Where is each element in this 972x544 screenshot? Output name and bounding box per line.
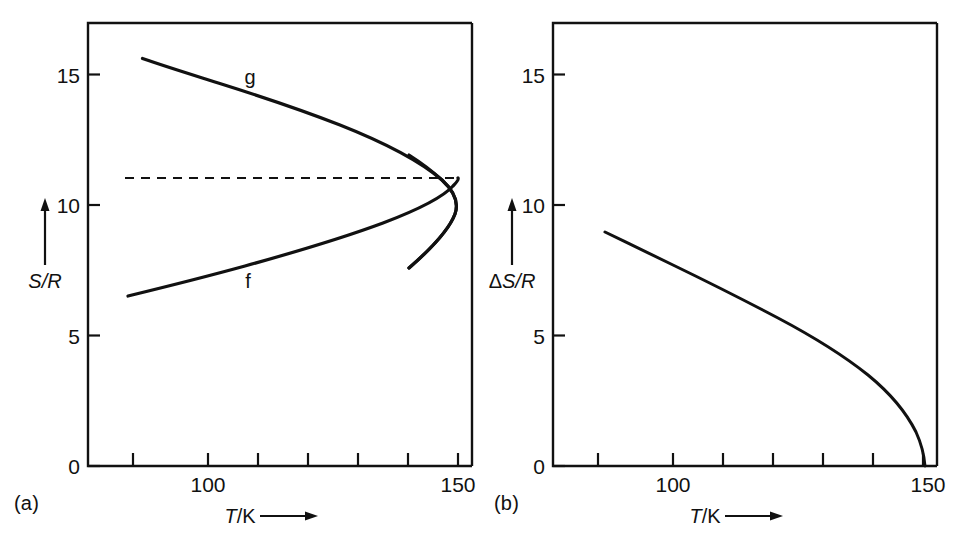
panel-b-ytick-0: 0	[533, 455, 545, 478]
panel-a-x-axis-arrow-icon	[260, 512, 318, 521]
panel-b-y-axis-title-unit: R	[521, 270, 535, 292]
panel-b-xtick-100: 100	[655, 473, 690, 496]
panel-a-x-ticks	[133, 453, 458, 466]
entropy-figure: 0 5 10 15 100 150 S/R	[0, 0, 972, 544]
panel-b-ytick-10: 10	[522, 194, 545, 217]
panel-a-y-axis-title: S/R	[28, 270, 61, 292]
panel-b-x-ticks	[598, 453, 923, 466]
panel-b-y-axis-title: ΔS/R	[489, 270, 536, 292]
panel-b-x-axis-arrow-icon	[725, 512, 783, 521]
panel-a-ytick-15: 15	[57, 64, 80, 87]
panel-a-y-axis-arrow-icon	[41, 198, 50, 265]
panel-b-y-ticks	[553, 75, 565, 467]
panel-b-x-axis-title: T/K	[689, 505, 721, 527]
curve-f	[128, 178, 458, 296]
panel-b-xtick-150: 150	[910, 473, 945, 496]
panel-b-y-axis-arrow-icon	[508, 198, 517, 265]
panel-a-y-axis-title-unit: R	[47, 270, 61, 292]
panel-b-ytick-5: 5	[533, 325, 545, 348]
panel-a-ytick-10: 10	[57, 194, 80, 217]
curve-delta-s	[605, 232, 925, 466]
panel-a-xtick-100: 100	[190, 473, 225, 496]
panel-b-y-axis-title-main: S	[502, 270, 516, 292]
panel-a-y-ticks	[88, 75, 100, 467]
panel-b: 0 5 10 15 100 150 ΔS/R	[489, 23, 946, 527]
panel-a-x-axis-title-unit: K	[242, 505, 256, 527]
panel-b-y-axis-title-delta: Δ	[489, 270, 502, 292]
curve-g	[143, 59, 457, 269]
figure-svg: 0 5 10 15 100 150 S/R	[0, 0, 972, 544]
panel-a: 0 5 10 15 100 150 S/R	[28, 23, 475, 527]
curve-dome-nose	[409, 155, 456, 268]
panel-a-ytick-0: 0	[68, 455, 80, 478]
panel-b-x-axis-title-unit: K	[707, 505, 721, 527]
panel-a-y-axis-title-main: S	[28, 270, 42, 292]
panel-a-xtick-150: 150	[440, 473, 475, 496]
panel-b-label: (b)	[494, 492, 519, 515]
panel-b-frame	[553, 23, 937, 466]
panel-a-label: (a)	[14, 492, 39, 515]
panel-a-frame	[88, 23, 472, 466]
panel-a-x-axis-title: T/K	[224, 505, 256, 527]
panel-b-ytick-15: 15	[522, 64, 545, 87]
curve-label-g: g	[244, 66, 255, 88]
curve-label-f: f	[245, 270, 251, 292]
panel-a-ytick-5: 5	[68, 325, 80, 348]
